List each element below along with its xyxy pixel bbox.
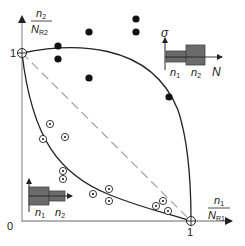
svg-text:n2: n2 [191, 66, 201, 79]
data-point [61, 133, 68, 140]
svg-text:n1: n1 [170, 66, 180, 79]
svg-text:n1: n1 [214, 194, 224, 207]
data-point [46, 120, 53, 127]
svg-text:n2: n2 [55, 206, 65, 219]
data-point [105, 197, 112, 204]
data-point [152, 202, 159, 209]
data-point [105, 185, 112, 192]
data-point [165, 93, 172, 100]
cycles-symbol: N [212, 65, 221, 79]
data-point [85, 28, 92, 35]
svg-text:NR2: NR2 [31, 23, 48, 36]
svg-text:n2: n2 [36, 7, 46, 20]
inset-low-high: σ n1 n2 N [161, 26, 222, 79]
data-point [164, 207, 171, 214]
endpoint-marker-y1 [18, 49, 27, 58]
svg-text:n1: n1 [35, 206, 45, 219]
endpoint-marker-x1 [187, 217, 196, 226]
data-point [89, 190, 96, 197]
inset-high-low: n1 n2 [29, 179, 72, 219]
x-tick-1: 1 [187, 226, 193, 238]
origin-label: 0 [7, 220, 13, 232]
data-point [54, 55, 61, 62]
sigma-symbol: σ [161, 26, 169, 40]
data-point [54, 42, 61, 49]
block-n2 [186, 45, 205, 65]
data-point [132, 28, 139, 35]
y-axis-label: n2 NR2 [31, 7, 52, 36]
filled-dots [54, 15, 172, 100]
data-point [132, 15, 139, 22]
x-axis-label: n1 NR1 [208, 194, 230, 222]
data-point [59, 175, 66, 182]
interaction-diagram: n2 NR2 1 n1 NR1 1 0 σ n1 n2 N n1 n2 [0, 0, 245, 246]
data-point [39, 135, 46, 142]
data-point [159, 197, 166, 204]
block-n1 [166, 51, 186, 62]
svg-text:NR1: NR1 [208, 209, 225, 222]
y-tick-1: 1 [10, 47, 16, 59]
data-point [59, 167, 66, 174]
data-point [85, 74, 92, 81]
